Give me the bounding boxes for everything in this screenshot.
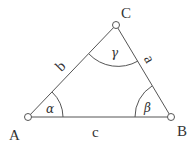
vertex-label-a: A xyxy=(9,127,20,143)
side-b xyxy=(28,25,116,117)
side-label-c: c xyxy=(92,124,99,140)
vertex-b-point xyxy=(168,114,175,121)
angle-label-alpha: α xyxy=(46,102,54,116)
angle-label-gamma: γ xyxy=(111,46,119,60)
vertex-a-point xyxy=(25,114,32,121)
vertex-c-point xyxy=(113,22,120,29)
vertex-label-b: B xyxy=(177,123,187,139)
triangle-diagram: C A B c b a α β γ xyxy=(0,0,196,147)
vertex-label-c: C xyxy=(121,5,131,21)
side-label-b: b xyxy=(52,58,69,75)
side-label-a: a xyxy=(141,52,158,66)
angle-label-beta: β xyxy=(143,101,151,115)
